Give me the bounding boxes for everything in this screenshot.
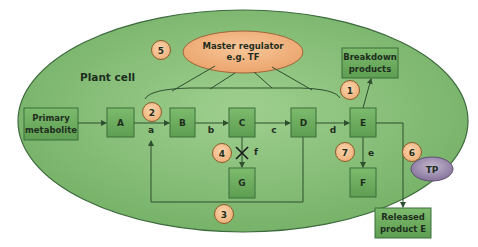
- marker-7: 7: [336, 143, 355, 162]
- svg-text:4: 4: [219, 149, 225, 159]
- svg-text:Breakdown: Breakdown: [343, 52, 397, 62]
- edge-label-f: f: [254, 147, 258, 157]
- svg-text:D: D: [300, 118, 307, 128]
- edge-label-d: d: [330, 125, 336, 135]
- svg-text:F: F: [360, 178, 366, 188]
- node-a: A: [107, 108, 134, 137]
- marker-4: 4: [213, 144, 232, 163]
- transporter-tp: TP: [411, 157, 453, 181]
- node-b: B: [170, 108, 195, 137]
- node-released-product: Released product E: [375, 208, 431, 238]
- svg-text:6: 6: [409, 148, 415, 158]
- svg-text:2: 2: [149, 108, 155, 118]
- node-c: C: [229, 108, 255, 137]
- svg-text:A: A: [117, 118, 124, 128]
- edge-label-e: e: [368, 148, 374, 158]
- marker-1: 1: [341, 81, 360, 100]
- node-g: G: [229, 168, 255, 198]
- node-f: F: [350, 168, 376, 197]
- node-d: D: [291, 108, 316, 137]
- svg-text:C: C: [239, 118, 246, 128]
- node-e: E: [350, 108, 376, 137]
- svg-text:G: G: [238, 178, 245, 188]
- svg-text:5: 5: [158, 46, 164, 56]
- node-breakdown-products: Breakdown products: [342, 48, 398, 78]
- svg-text:TP: TP: [426, 165, 439, 175]
- svg-text:1: 1: [347, 86, 353, 96]
- svg-text:products: products: [349, 64, 391, 74]
- marker-3: 3: [215, 205, 234, 224]
- svg-text:7: 7: [342, 148, 348, 158]
- marker-2: 2: [143, 103, 162, 122]
- edge-label-a: a: [148, 125, 154, 135]
- svg-text:B: B: [179, 118, 186, 128]
- node-primary-metabolite: Primary metabolite: [24, 108, 78, 140]
- regulator-line2: e.g. TF: [227, 52, 260, 62]
- edge-label-b: b: [208, 125, 215, 135]
- edge-label-c: c: [271, 125, 276, 135]
- marker-5: 5: [152, 41, 171, 60]
- regulator-line1: Master regulator: [202, 41, 284, 51]
- svg-text:Primary: Primary: [32, 113, 70, 123]
- marker-6: 6: [403, 143, 422, 162]
- svg-text:metabolite: metabolite: [25, 125, 77, 135]
- svg-text:3: 3: [221, 210, 227, 220]
- pathway-diagram: Plant cell Master regulator e.g. TF Prim…: [0, 0, 478, 247]
- svg-text:E: E: [360, 118, 366, 128]
- plant-cell-label: Plant cell: [80, 71, 135, 83]
- svg-text:product E: product E: [380, 224, 426, 234]
- svg-text:Released: Released: [381, 212, 425, 222]
